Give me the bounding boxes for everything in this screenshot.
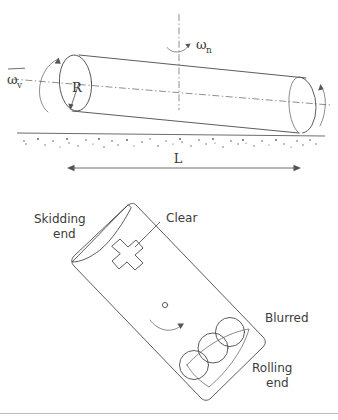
right-end-ellipse [303, 78, 317, 133]
clear-label: Clear [166, 211, 197, 225]
right-end-ellipse-inner [289, 77, 303, 133]
ground-line [17, 133, 325, 136]
omega-n-label-group: ω n [196, 37, 212, 55]
radius-arrow-head [68, 104, 73, 110]
technical-figure: R ω v ω n [0, 0, 338, 420]
right-end-curved-arrow [320, 86, 325, 126]
length-arrow-head-left [67, 165, 75, 171]
small-circle-marker [162, 302, 167, 307]
track-mark-plan-view: Skidding end Clear Blurred Rolling end [34, 204, 309, 401]
figure-root: R ω v ω n [0, 0, 338, 420]
rolling-end-label-line1: Rolling [252, 361, 292, 375]
clear-leader-line [135, 222, 160, 247]
omega-v-overbar [8, 68, 25, 69]
rolling-end-label-line2: end [266, 376, 289, 390]
radius-label: R [72, 80, 83, 95]
length-label: L [174, 151, 183, 166]
cylinder-perspective-view: R ω v ω n [7, 14, 330, 171]
omega-n-subscript: n [206, 45, 212, 55]
overlapping-circle-2 [198, 333, 228, 363]
skidding-end-label-line2: end [53, 227, 76, 241]
blurred-label: Blurred [265, 311, 309, 325]
omega-v-curved-arrow [39, 59, 58, 112]
skidding-end-label-line1: Skidding [34, 212, 86, 226]
rolling-end-lens [187, 329, 249, 387]
rotation-arrow-head [177, 324, 184, 330]
omega-n-curved-arrow [167, 45, 189, 52]
omega-v-subscript: v [16, 80, 23, 90]
debris-speckles [23, 138, 316, 148]
length-arrow-head-right [294, 165, 302, 171]
cylinder-bottom-edge [72, 111, 299, 133]
rotation-curved-arrow [150, 320, 182, 330]
bottom-divider [0, 413, 338, 414]
omega-v-label-group: ω v [7, 68, 25, 90]
overlapping-circle-1 [216, 318, 245, 347]
cylinder-top-edge [79, 55, 306, 78]
omega-n-arrow-head [185, 44, 190, 49]
